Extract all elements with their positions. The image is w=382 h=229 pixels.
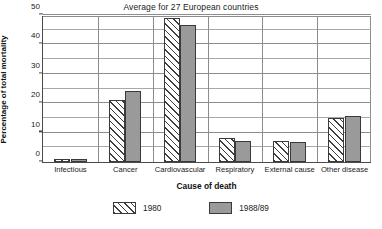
legend-item: 1980 xyxy=(113,202,161,214)
legend-label: 1980 xyxy=(143,204,161,213)
bar-1988-89 xyxy=(235,141,251,162)
y-tick-label: 40 xyxy=(31,31,40,40)
y-axis-title: Percentage of total mortality xyxy=(0,16,11,163)
bar-group: Respiratory xyxy=(208,16,263,162)
gridline-major xyxy=(43,14,371,15)
x-tick-label: Respiratory xyxy=(215,165,254,174)
chart-legend: 19801988/89 xyxy=(0,202,382,214)
bar-1980 xyxy=(164,18,180,162)
legend-swatch-1980 xyxy=(113,202,136,214)
legend-item: 1988/89 xyxy=(209,202,269,214)
bar-1980 xyxy=(328,118,344,162)
legend-label: 1988/89 xyxy=(239,204,269,213)
bar-1988-89 xyxy=(125,91,141,162)
x-tick-label: External cause xyxy=(265,165,315,174)
bar-chart: Average for 27 European countries Percen… xyxy=(0,0,382,229)
bar-1980 xyxy=(54,159,70,162)
y-tick-label: 10 xyxy=(31,119,40,128)
y-tick-label: 0 xyxy=(36,149,40,158)
x-tick-label: Cancer xyxy=(113,165,137,174)
bar-1988-89 xyxy=(345,116,361,162)
bar-group: Cardiovascular xyxy=(153,16,208,162)
y-tick-label: 30 xyxy=(31,60,40,69)
chart-title: Average for 27 European countries xyxy=(0,2,382,12)
y-tick-label: 50 xyxy=(31,2,40,11)
y-tick-mark xyxy=(39,13,43,14)
bar-group: External cause xyxy=(262,16,317,162)
bar-1980 xyxy=(109,100,125,162)
bar-group: Cancer xyxy=(98,16,153,162)
x-tick-label: Cardiovascular xyxy=(155,165,206,174)
bar-1988-89 xyxy=(71,159,87,162)
x-axis-title: Cause of death xyxy=(42,181,371,191)
bar-group: Other disease xyxy=(317,16,372,162)
bar-group: Infectious xyxy=(43,16,98,162)
x-tick-label: Other disease xyxy=(321,165,368,174)
plot-area: 01020304050InfectiousCancerCardiovascula… xyxy=(42,16,371,163)
x-tick-label: Infectious xyxy=(54,165,87,174)
bar-1988-89 xyxy=(290,142,306,162)
bar-1980 xyxy=(273,141,289,162)
bar-1988-89 xyxy=(180,25,196,162)
y-tick-label: 20 xyxy=(31,90,40,99)
bar-1980 xyxy=(219,138,235,162)
legend-swatch-1988-89 xyxy=(209,202,232,214)
